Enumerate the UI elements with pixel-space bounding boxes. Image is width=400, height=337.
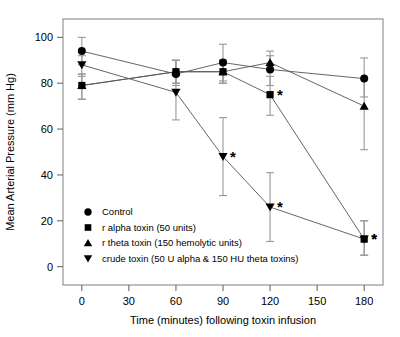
x-axis-title: Time (minutes) following toxin infusion xyxy=(130,314,316,326)
y-tick-label: 0 xyxy=(47,261,53,273)
x-tick-label: 180 xyxy=(355,295,373,307)
circle-marker xyxy=(219,59,227,67)
y-axis-title: Mean Arterial Pressure (mm Hg) xyxy=(4,73,16,231)
x-tick-label: 150 xyxy=(308,295,326,307)
x-tick-label: 90 xyxy=(217,295,229,307)
legend-item: r theta toxin (150 hemolytic units) xyxy=(84,237,242,248)
x-tick-label: 30 xyxy=(123,295,135,307)
y-tick-label: 100 xyxy=(35,31,53,43)
x-tick-label: 0 xyxy=(79,295,85,307)
legend-item: r alpha toxin (50 units) xyxy=(85,222,196,233)
legend-item-label: Control xyxy=(102,206,133,217)
legend-item-label: r alpha toxin (50 units) xyxy=(102,222,196,233)
circle-marker xyxy=(78,47,86,55)
legend-item-label: r theta toxin (150 hemolytic units) xyxy=(102,237,242,248)
significance-star: * xyxy=(230,148,236,165)
line-chart: 020406080100 0306090120150180 ***** Cont… xyxy=(0,0,400,337)
y-tick-label: 40 xyxy=(41,169,53,181)
circle-marker xyxy=(84,208,91,215)
legend-item: crude toxin (50 U alpha & 150 HU theta t… xyxy=(84,253,299,264)
circle-marker xyxy=(360,75,368,83)
x-tick-label: 60 xyxy=(170,295,182,307)
legend-item-label: crude toxin (50 U alpha & 150 HU theta t… xyxy=(102,253,298,264)
significance-star: * xyxy=(371,230,377,247)
y-tick-label: 20 xyxy=(41,215,53,227)
significance-star: * xyxy=(277,86,283,103)
y-tick-label: 60 xyxy=(41,123,53,135)
square-marker xyxy=(85,224,92,231)
chart-background xyxy=(0,0,400,337)
circle-marker xyxy=(266,65,274,73)
y-tick-label: 80 xyxy=(41,77,53,89)
chart-figure: 020406080100 0306090120150180 ***** Cont… xyxy=(0,0,400,337)
x-tick-label: 120 xyxy=(261,295,279,307)
square-marker xyxy=(266,91,273,98)
significance-star: * xyxy=(277,198,283,215)
